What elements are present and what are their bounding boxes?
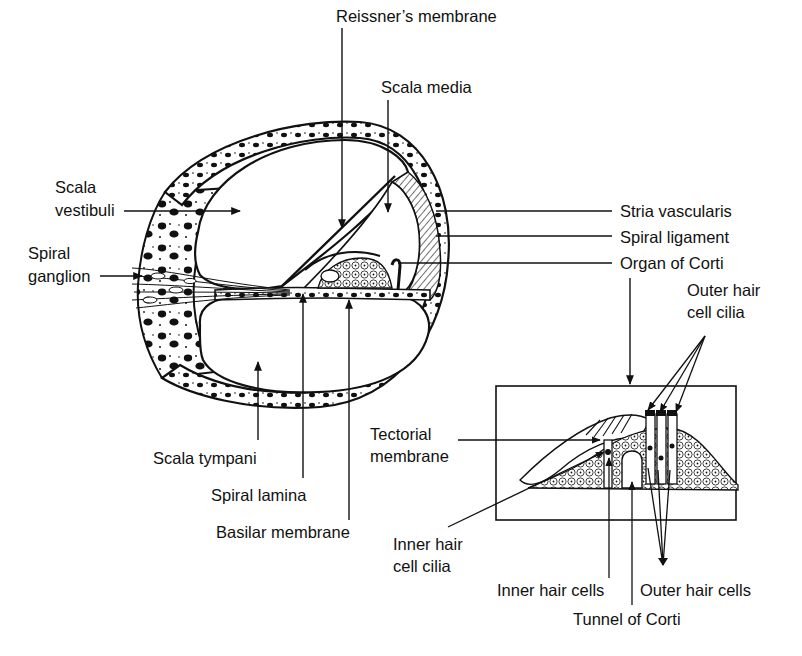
label-stria-vascularis: Stria vascularis bbox=[620, 201, 732, 221]
label-outer-hair-cell-cilia-line1: Outer hair bbox=[687, 280, 760, 300]
label-scala-vestibuli-line2: vestibuli bbox=[55, 200, 115, 220]
label-outer-hair-cells: Outer hair cells bbox=[640, 580, 751, 600]
label-scala-media: Scala media bbox=[381, 77, 472, 97]
label-spiral-lamina: Spiral lamina bbox=[211, 485, 306, 505]
label-tunnel-of-corti: Tunnel of Corti bbox=[573, 609, 681, 629]
scala-tympani-chamber bbox=[200, 296, 429, 392]
label-inner-hair-cells: Inner hair cells bbox=[497, 580, 604, 600]
label-scala-tympani: Scala tympani bbox=[153, 448, 257, 468]
label-organ-of-corti: Organ of Corti bbox=[620, 253, 724, 273]
label-spiral-ligament: Spiral ligament bbox=[620, 227, 729, 247]
label-tectorial-membrane-line2: membrane bbox=[370, 446, 449, 466]
organ-of-corti-inset bbox=[496, 386, 738, 520]
label-reissners-membrane: Reissner’s membrane bbox=[336, 6, 497, 26]
label-spiral-ganglion-line1: Spiral bbox=[28, 243, 70, 263]
label-inner-hair-cell-cilia-line2: cell cilia bbox=[393, 556, 451, 576]
label-basilar-membrane: Basilar membrane bbox=[216, 522, 350, 542]
label-outer-hair-cell-cilia-line2: cell cilia bbox=[687, 302, 745, 322]
label-scala-vestibuli-line1: Scala bbox=[55, 177, 96, 197]
label-inner-hair-cell-cilia-line1: Inner hair bbox=[393, 534, 463, 554]
label-tectorial-membrane-line1: Tectorial bbox=[370, 424, 431, 444]
label-spiral-ganglion-line2: ganglion bbox=[28, 266, 90, 286]
cochlea-cross-section bbox=[132, 122, 449, 408]
cochlea-diagram: Reissner’s membrane Scala media Scala ve… bbox=[0, 0, 802, 656]
